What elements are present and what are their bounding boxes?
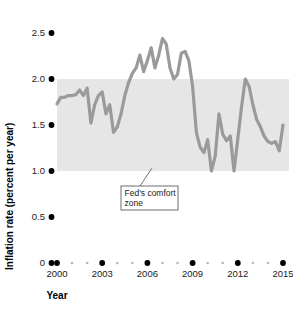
chart-canvas: 2.52.01.51.00.50 20002003200620092012201… — [0, 0, 293, 309]
y-tick-dot — [49, 260, 55, 266]
x-tick-dot — [54, 260, 60, 266]
x-minor-tick-dot — [176, 262, 179, 265]
y-tick-dot — [49, 30, 55, 36]
y-tick-label: 1.5 — [32, 119, 45, 130]
annotation-layer: Fed's comfortzone — [121, 168, 178, 210]
y-tick-dot — [49, 214, 55, 220]
x-tick-label: 2012 — [227, 268, 248, 279]
y-axis-title: Inflation rate (percent per year) — [4, 123, 15, 270]
x-axis-title: Year — [46, 290, 67, 301]
x-minor-tick-dot — [252, 262, 255, 265]
x-minor-tick-dot — [206, 262, 209, 265]
x-minor-tick-dot — [267, 262, 270, 265]
inflation-rate-chart: 2.52.01.51.00.50 20002003200620092012201… — [0, 0, 293, 309]
x-minor-tick-dot — [86, 262, 89, 265]
x-minor-tick-dot — [221, 262, 224, 265]
x-minor-tick-dot — [71, 262, 74, 265]
y-tick-dot — [49, 122, 55, 128]
y-tick-label: 2.5 — [32, 27, 45, 38]
x-minor-tick-dot — [161, 262, 164, 265]
x-axis-ticks: 200020032006200920122015 — [46, 260, 293, 279]
y-tick-dot — [49, 76, 55, 82]
y-tick-label: 0.5 — [32, 211, 45, 222]
x-tick-dot — [99, 260, 105, 266]
x-tick-label: 2009 — [182, 268, 203, 279]
y-tick-label: 1.0 — [32, 165, 45, 176]
y-axis-ticks: 2.52.01.51.00.50 — [32, 27, 55, 268]
y-tick-label: 2.0 — [32, 73, 45, 84]
comfort-zone-band-layer — [57, 79, 289, 171]
y-tick-label: 0 — [40, 257, 45, 268]
x-minor-tick-dot — [116, 262, 119, 265]
x-tick-dot — [235, 260, 241, 266]
y-tick-dot — [49, 168, 55, 174]
x-tick-label: 2000 — [46, 268, 67, 279]
x-tick-dot — [190, 260, 196, 266]
x-tick-label: 2015 — [272, 268, 293, 279]
annotation-text-line1: Fed's comfort — [125, 188, 177, 198]
x-tick-label: 2003 — [92, 268, 113, 279]
x-minor-tick-dot — [131, 262, 134, 265]
x-tick-label: 2006 — [137, 268, 158, 279]
x-tick-dot — [280, 260, 286, 266]
comfort-zone-band — [57, 79, 289, 171]
annotation-text-line2: zone — [125, 198, 144, 208]
x-tick-dot — [145, 260, 151, 266]
